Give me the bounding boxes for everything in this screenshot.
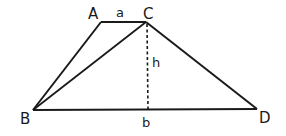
label-side-a: a — [116, 5, 124, 20]
label-vertex-b: B — [20, 110, 30, 128]
label-base-b: b — [142, 115, 150, 130]
edge-bd — [33, 109, 257, 110]
label-vertex-a: A — [88, 5, 99, 23]
trapezoid-diagram: A a C h B b D — [0, 0, 286, 136]
label-vertex-d: D — [259, 109, 271, 127]
diagonal-cb — [33, 22, 146, 110]
edge-cd — [146, 22, 257, 109]
label-height-h: h — [152, 55, 160, 70]
label-vertex-c: C — [143, 5, 153, 23]
height-line — [147, 24, 148, 110]
